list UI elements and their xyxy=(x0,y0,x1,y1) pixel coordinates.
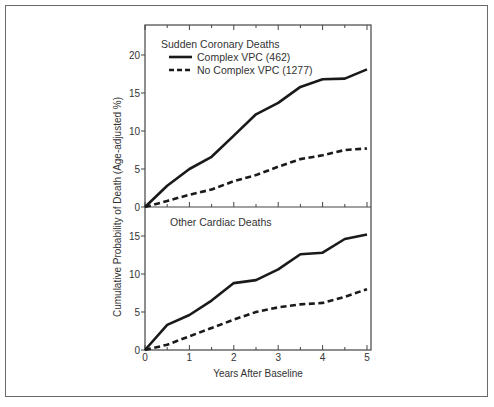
y-tick-label: 15 xyxy=(129,88,141,99)
y-tick-label: 20 xyxy=(129,50,141,61)
bottom-panel-title: Other Cardiac Deaths xyxy=(170,216,272,228)
legend-solid-label: Complex VPC (462) xyxy=(197,51,290,63)
x-tick-label: 0 xyxy=(142,352,148,363)
y-tick-label: 15 xyxy=(129,231,141,242)
x-axis-label: Years After Baseline xyxy=(213,368,303,379)
y-tick-label: 10 xyxy=(129,126,141,137)
y-tick-label: 5 xyxy=(134,164,140,175)
y-axis-label: Cumulative Probability of Death (Age-adj… xyxy=(112,97,123,317)
y-tick-label: 5 xyxy=(134,307,140,318)
data-lines xyxy=(145,69,367,350)
x-tick-label: 5 xyxy=(364,352,370,363)
x-tick-label: 3 xyxy=(275,352,281,363)
y-tick-label: 10 xyxy=(129,269,141,280)
y-tick-label: 0 xyxy=(134,202,140,213)
survival-chart: 05101520051015012345 Sudden Coronary Dea… xyxy=(0,0,494,407)
complex-vpc-line xyxy=(145,235,367,351)
x-tick-label: 4 xyxy=(320,352,326,363)
top-panel-title: Sudden Coronary Deaths xyxy=(161,38,280,50)
complex-vpc-line xyxy=(145,69,367,207)
y-tick-label: 0 xyxy=(134,345,140,356)
x-tick-label: 2 xyxy=(231,352,237,363)
legend-dashed-label: No Complex VPC (1277) xyxy=(197,64,313,76)
x-tick-label: 1 xyxy=(187,352,193,363)
